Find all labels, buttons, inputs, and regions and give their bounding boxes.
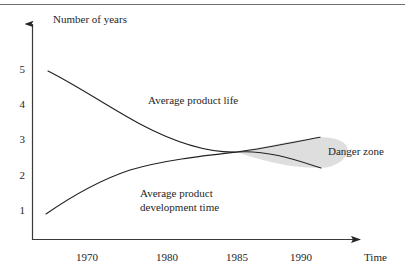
y-tick-label-3: 3 bbox=[11, 134, 25, 146]
y-tick-label-2: 2 bbox=[11, 170, 25, 182]
y-axis-title: Number of years bbox=[53, 14, 127, 26]
x-tick-label-1985: 1985 bbox=[217, 252, 257, 264]
y-tick-label-5: 5 bbox=[11, 64, 25, 76]
x-tick-label-1980: 1980 bbox=[147, 252, 187, 264]
series-label-average-product-development-time-line1: Average product bbox=[140, 188, 213, 200]
y-tick-label-4: 4 bbox=[11, 99, 25, 111]
series-label-average-product-development-time-line2: development time bbox=[140, 202, 219, 214]
x-tick-label-1990: 1990 bbox=[281, 252, 321, 264]
x-axis-title: Time bbox=[364, 252, 387, 264]
x-tick-label-1970: 1970 bbox=[67, 252, 107, 264]
series-label-average-product-life: Average product life bbox=[148, 95, 238, 107]
chart-figure: Number of years Time 5 4 3 2 1 1970 1980… bbox=[0, 0, 405, 280]
danger-zone-label: Danger zone bbox=[328, 146, 384, 158]
y-tick-label-1: 1 bbox=[11, 205, 25, 217]
chart-plot-area bbox=[0, 0, 405, 280]
